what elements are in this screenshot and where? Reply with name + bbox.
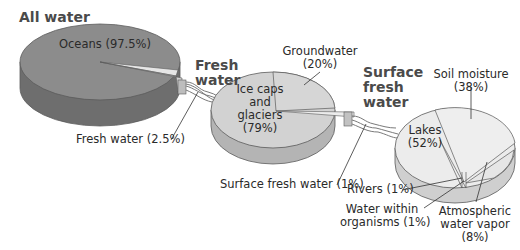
label-surface-fresh-water: Surface fresh water (1%): [220, 178, 364, 191]
label-line: (8%): [436, 231, 514, 244]
label-ice-caps-glaciers: Ice caps and glaciers (79%): [234, 83, 286, 135]
label-rivers: Rivers (1%): [347, 183, 414, 196]
title-all-water: All water: [19, 10, 90, 25]
stream-surface-fresh-water: [352, 116, 398, 138]
label-line: (79%): [234, 122, 286, 135]
label-soil-moisture: Soil moisture (38%): [432, 68, 510, 94]
label-lakes: Lakes (52%): [401, 124, 449, 150]
title-surface-fresh-water: Surface fresh water: [363, 65, 423, 110]
label-line: (20%): [282, 58, 358, 71]
label-atmospheric-water-vapor: Atmospheric water vapor (8%): [436, 205, 514, 244]
label-groundwater: Groundwater (20%): [282, 45, 358, 71]
title-surface-fresh-water-line3: water: [363, 95, 423, 110]
label-line: (38%): [432, 81, 510, 94]
label-fresh-water: Fresh water (2.5%): [76, 133, 185, 146]
label-line: (52%): [401, 137, 449, 150]
title-surface-fresh-water-line2: fresh: [363, 80, 423, 95]
label-line: organisms (1%): [340, 216, 424, 229]
title-fresh-water-line1: Fresh: [195, 58, 240, 73]
title-surface-fresh-water-line1: Surface: [363, 65, 423, 80]
label-oceans: Oceans (97.5%): [59, 38, 151, 51]
label-water-within-organisms: Water within organisms (1%): [340, 203, 424, 229]
